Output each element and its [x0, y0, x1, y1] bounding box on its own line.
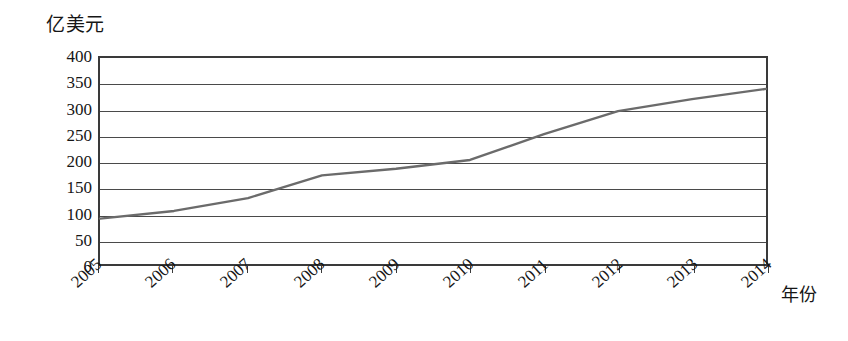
- series-line-layer: [100, 58, 766, 264]
- x-axis-tick-labels: 2005200620072008200920102011201220132014: [98, 272, 768, 322]
- y-axis-tick-label: 150: [46, 179, 92, 196]
- x-axis-title: 年份: [781, 285, 817, 305]
- line-chart: 亿美元 050100150200250300350400 20052006200…: [0, 0, 848, 341]
- y-axis-tick-label: 350: [46, 74, 92, 91]
- y-axis-tick-label: 50: [46, 232, 92, 249]
- y-axis-tick-labels: 050100150200250300350400: [40, 56, 92, 266]
- y-axis-unit-label: 亿美元: [46, 14, 105, 36]
- y-axis-tick-label: 300: [46, 101, 92, 118]
- y-axis-tick-label: 250: [46, 127, 92, 144]
- y-axis-tick-label: 100: [46, 206, 92, 223]
- plot-area: [98, 56, 768, 266]
- series-line: [100, 89, 766, 219]
- y-axis-tick-label: 400: [46, 48, 92, 65]
- y-axis-tick-label: 200: [46, 153, 92, 170]
